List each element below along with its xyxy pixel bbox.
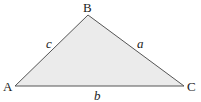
side-label-b: b <box>94 88 101 102</box>
triangle-diagram: A B C c a b <box>0 0 201 102</box>
vertex-label-a: A <box>3 79 13 94</box>
side-label-c: c <box>46 36 52 51</box>
vertex-label-b: B <box>83 0 92 15</box>
vertex-label-c: C <box>187 79 196 94</box>
side-label-a: a <box>137 36 144 51</box>
triangle-shape <box>15 15 184 86</box>
